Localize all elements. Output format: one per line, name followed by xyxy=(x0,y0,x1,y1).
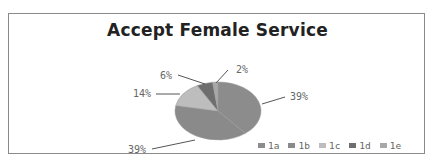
data-label-1a: 39% xyxy=(290,91,308,102)
data-label-1b: 39% xyxy=(128,144,146,155)
legend-label: 1d xyxy=(359,140,370,151)
legend-swatch-icon xyxy=(349,143,356,148)
legend-swatch-icon xyxy=(319,143,326,148)
data-label-1e: 2% xyxy=(236,64,248,75)
leader-line xyxy=(262,97,285,104)
data-label-1c: 14% xyxy=(133,88,151,99)
pie-chart: 39%39%14%6%2% xyxy=(0,0,435,163)
legend-label: 1a xyxy=(268,140,279,151)
legend-item-1e: 1e xyxy=(380,140,401,151)
legend-label: 1b xyxy=(298,140,309,151)
legend-label: 1e xyxy=(390,140,401,151)
leader-line xyxy=(178,75,205,84)
legend-item-1d: 1d xyxy=(349,140,370,151)
legend-item-1b: 1b xyxy=(288,140,309,151)
data-label-1d: 6% xyxy=(160,70,172,81)
leader-line xyxy=(216,70,228,83)
legend-swatch-icon xyxy=(258,143,265,148)
legend: 1a1b1c1d1e xyxy=(258,140,401,151)
legend-item-1a: 1a xyxy=(258,140,279,151)
legend-item-1c: 1c xyxy=(319,140,340,151)
pie-slices xyxy=(175,82,261,140)
leader-line xyxy=(152,140,195,149)
legend-swatch-icon xyxy=(288,143,295,148)
legend-label: 1c xyxy=(329,140,340,151)
legend-swatch-icon xyxy=(380,143,387,148)
